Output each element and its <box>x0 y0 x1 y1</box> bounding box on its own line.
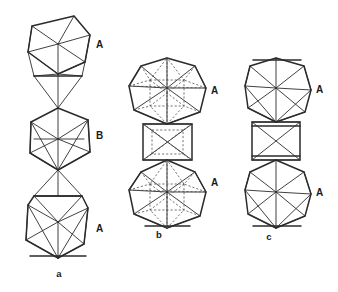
panel-b-caption: b <box>156 229 162 240</box>
panel-c-connector-prism <box>252 122 300 160</box>
panel-a-label-A-top: A <box>96 39 103 50</box>
panel-c: A A c <box>245 58 323 242</box>
panel-a-caption: a <box>56 268 62 279</box>
panel-c-label-A-top: A <box>316 84 323 95</box>
polyhedra-figure: A B A a <box>0 0 338 292</box>
panel-c-unit-A-bottom <box>245 160 311 228</box>
panel-a-unit-A-top <box>28 16 90 108</box>
panel-c-label-A-bottom: A <box>316 187 323 198</box>
panel-a-label-A-bottom: A <box>96 223 103 234</box>
panel-a-unit-A-bottom <box>26 170 88 258</box>
panel-b-label-A-bottom: A <box>211 177 218 188</box>
panel-c-caption: c <box>266 231 271 242</box>
panel-a-label-B: B <box>96 130 103 141</box>
panel-b-unit-A-top <box>129 58 206 124</box>
panel-a-unit-B <box>30 108 90 170</box>
panel-b: A A b <box>129 58 218 240</box>
panel-b-connector-antiprism <box>143 124 192 160</box>
panel-b-label-A-top: A <box>211 85 218 96</box>
panel-c-unit-A-top <box>245 58 311 122</box>
panel-a: A B A a <box>26 16 103 279</box>
panel-b-unit-A-bottom <box>129 160 206 228</box>
